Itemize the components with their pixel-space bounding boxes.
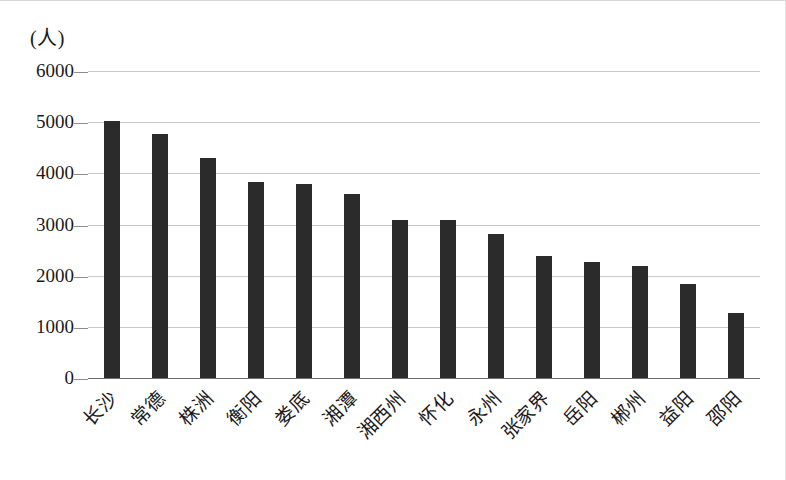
x-label-湘西州: 湘西州 [354,388,409,443]
gridline-3000 [88,225,760,226]
bar-湘潭 [344,194,360,378]
bar-株洲 [200,158,216,378]
gridline-2000 [88,276,760,277]
x-label-湘潭: 湘潭 [319,388,361,430]
bar-湘西州 [392,220,408,378]
tick-stub-3000 [74,226,88,227]
x-label-邵阳: 邵阳 [703,388,745,430]
tick-stub-4000 [74,174,88,175]
y-tick-label-0: 0 [4,368,74,387]
y-tick-label-2000: 2000 [4,266,74,285]
x-label-衡阳: 衡阳 [223,388,265,430]
gridline-6000 [88,71,760,72]
bar-衡阳 [248,182,264,378]
bar-chart-figure: (人) 6000 5000 4000 3000 2000 1000 0 长沙常德… [0,0,786,480]
tick-stub-6000 [74,72,88,73]
x-label-长沙: 长沙 [79,388,121,430]
tick-stub-1000 [74,328,88,329]
gridline-1000 [88,327,760,328]
bar-岳阳 [584,262,600,378]
y-tick-label-4000: 4000 [4,163,74,182]
y-tick-label-3000: 3000 [4,215,74,234]
tick-stub-0 [74,379,88,380]
plot-area [88,71,760,378]
x-label-娄底: 娄底 [271,388,313,430]
x-label-张家界: 张家界 [498,388,553,443]
tick-stub-5000 [74,123,88,124]
x-label-株洲: 株洲 [175,388,217,430]
bar-张家界 [536,256,552,378]
y-axis-unit-label: (人) [30,25,65,51]
bar-邵阳 [728,313,744,378]
x-label-岳阳: 岳阳 [559,388,601,430]
bar-娄底 [296,184,312,378]
gridline-5000 [88,122,760,123]
x-label-永州: 永州 [463,388,505,430]
bar-长沙 [104,121,120,378]
tick-stub-2000 [74,277,88,278]
y-tick-label-6000: 6000 [4,61,74,80]
y-tick-label-5000: 5000 [4,112,74,131]
x-label-郴州: 郴州 [607,388,649,430]
x-axis-category-labels: 长沙常德株洲衡阳娄底湘潭湘西州怀化永州张家界岳阳郴州益阳邵阳 [88,378,760,480]
bar-益阳 [680,284,696,378]
y-tick-label-1000: 1000 [4,317,74,336]
x-label-怀化: 怀化 [415,388,457,430]
x-label-益阳: 益阳 [655,388,697,430]
x-label-常德: 常德 [127,388,169,430]
bar-郴州 [632,266,648,378]
bar-常德 [152,134,168,378]
y-axis-tick-labels: 6000 5000 4000 3000 2000 1000 0 [0,71,74,378]
bar-怀化 [440,220,456,378]
bar-永州 [488,234,504,378]
gridline-4000 [88,173,760,174]
